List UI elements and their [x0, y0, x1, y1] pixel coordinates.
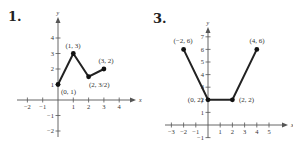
y-tick-label: 4: [201, 71, 205, 78]
point-annotation: (0, 2): [188, 96, 204, 104]
x-tick-label: −2: [180, 128, 187, 135]
y-tick-label: 1: [201, 109, 204, 116]
data-point: [230, 97, 235, 102]
x-axis-label: x: [290, 122, 293, 128]
y-axis-label: y: [206, 20, 210, 26]
y-tick-label: 7: [201, 33, 205, 40]
y-tick-label: −1: [197, 134, 204, 141]
data-point: [181, 47, 186, 52]
x-tick-label: 5: [267, 128, 270, 135]
data-point: [254, 47, 259, 52]
x-tick-label: 2: [231, 128, 234, 135]
data-line: [184, 49, 257, 99]
x-tick-label: 1: [219, 128, 222, 135]
y-tick-label: 6: [201, 46, 205, 53]
y-tick-label: 5: [201, 58, 204, 65]
point-annotation: (4, 6): [249, 37, 265, 45]
y-axis-arrow-icon: [206, 27, 211, 33]
x-tick-label: −3: [168, 128, 175, 135]
x-axis-arrow-icon: [282, 123, 288, 128]
point-annotation: (−2, 6): [173, 37, 193, 45]
chart-problem-3: xy−3−2−112345−11234567(−2, 6)(0, 2)(2, 2…: [0, 0, 293, 149]
data-point: [206, 97, 211, 102]
x-tick-label: 4: [255, 128, 259, 135]
x-tick-label: 3: [243, 128, 246, 135]
point-annotation: (2, 2): [239, 96, 255, 104]
